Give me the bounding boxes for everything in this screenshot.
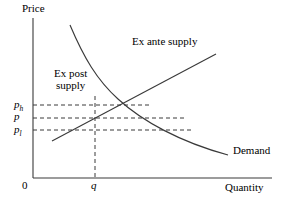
- supply-demand-figure: Price Quantity 0 ph p pl q Ex ante suppl…: [0, 0, 290, 206]
- ex-post-supply-label-line2: supply: [54, 80, 87, 92]
- demand-label: Demand: [233, 145, 270, 157]
- price-low-tick-subscript: l: [20, 129, 22, 138]
- x-axis-label: Quantity: [225, 182, 264, 194]
- ex-post-supply-label: Ex post supply: [54, 68, 87, 92]
- y-axis-label: Price: [22, 3, 45, 15]
- price-mid-tick-label: p: [14, 111, 20, 123]
- quantity-tick-label: q: [91, 180, 97, 192]
- origin-label: 0: [22, 180, 28, 192]
- price-low-tick-label: pl: [14, 124, 22, 138]
- price-high-tick-subscript: h: [20, 104, 24, 113]
- plot-canvas: [0, 0, 290, 206]
- ex-ante-supply-label: Ex ante supply: [132, 36, 197, 48]
